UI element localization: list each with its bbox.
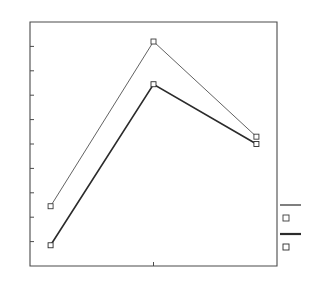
data-series [48, 82, 259, 248]
y-axis-ticks [30, 46, 34, 241]
data-point-marker [151, 39, 156, 44]
data-point-marker [254, 134, 259, 139]
legend-marker-swatch [283, 215, 289, 221]
data-series [48, 39, 259, 209]
data-point-marker [254, 142, 259, 147]
axes-frame [30, 22, 277, 266]
data-point-marker [48, 204, 53, 209]
data-series-group [48, 39, 259, 248]
legend-marker-swatch [283, 244, 289, 250]
chart-figure [0, 0, 313, 289]
chart-legend [280, 205, 301, 250]
series-line [51, 42, 257, 207]
data-point-marker [48, 243, 53, 248]
plot-frame [30, 22, 277, 266]
data-point-marker [151, 82, 156, 87]
line-chart [0, 0, 313, 289]
